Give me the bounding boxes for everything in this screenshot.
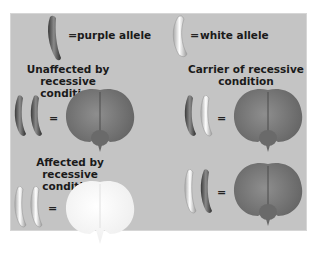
title-line1: Affected by recessive	[10, 156, 130, 180]
title-line1: Carrier of recessive	[186, 63, 306, 75]
white-allele-icon	[168, 14, 190, 58]
case-carrier2-equals: =	[217, 186, 226, 199]
title-line1: Unaffected by recessive	[8, 63, 128, 87]
legend-purple-equals: =	[68, 29, 77, 42]
case-affected-equals: =	[48, 202, 57, 215]
allele-pair-purple-purple	[12, 94, 46, 138]
legend-purple-label: purple allele	[77, 29, 151, 41]
allele-pair-purple-white	[182, 94, 216, 138]
purple-allele-icon	[44, 14, 64, 62]
allele-pair-white-white	[12, 185, 46, 229]
legend-white-equals: =	[190, 29, 199, 42]
case-unaffected-equals: =	[49, 112, 58, 125]
case-carrier-title: Carrier of recessive condition	[186, 63, 306, 87]
legend-white-label: white allele	[200, 29, 269, 41]
purple-flower-icon	[62, 86, 140, 154]
case-carrier-equals: =	[217, 112, 226, 125]
purple-flower-icon	[230, 86, 308, 154]
allele-pair-white-purple	[182, 168, 216, 216]
white-flower-icon	[62, 178, 140, 246]
purple-flower-icon	[230, 160, 308, 228]
